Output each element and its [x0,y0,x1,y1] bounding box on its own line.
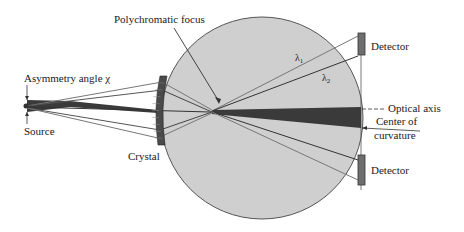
ray [27,82,162,106]
lambda2-subscript: 2 [327,77,331,85]
source-point [24,104,29,109]
asymmetry-angle-label: Asymmetry angle χ [24,72,110,84]
asymmetry-arrowhead-top [25,96,29,100]
detector-bottom-label: Detector [371,164,409,176]
polychromatic-focus-label: Polychromatic focus [114,13,205,25]
center-of-curvature-label-line1: Center of [376,115,418,127]
center-of-curvature-label-line2: curvature [374,129,416,141]
crystal-label: Crystal [128,150,160,162]
optical-axis-label: Optical axis [388,102,441,114]
detector-top [358,33,365,55]
detector-bottom [358,155,365,185]
source-label: Source [24,125,55,137]
detector-top-label: Detector [371,40,409,52]
lambda1-subscript: 1 [300,57,304,65]
asymmetry-arrowhead-bottom [25,112,29,116]
spectrometer-diagram: Polychromatic focus Asymmetry angle χ So… [0,0,464,232]
